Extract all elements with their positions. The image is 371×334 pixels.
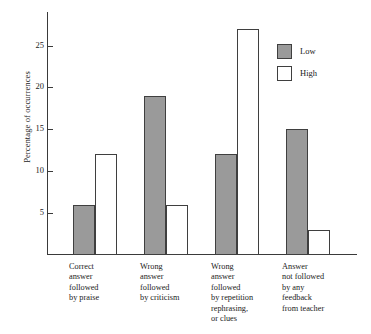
y-axis-tick: 5	[48, 213, 53, 214]
y-axis-tick: 25	[48, 46, 53, 47]
bar-high-group-1	[95, 154, 117, 255]
y-axis-tick-label: 5	[40, 207, 44, 217]
legend: LowHigh	[277, 40, 317, 84]
bar-high-group-3	[237, 29, 259, 255]
x-axis-label-1: Correct answer followed by praise	[69, 262, 99, 304]
x-axis-label-3: Wrong answer followed by repetition reph…	[211, 262, 253, 324]
bar-low-group-1	[73, 205, 95, 255]
y-axis-line	[47, 12, 48, 255]
y-axis-tick: 15	[48, 129, 53, 130]
bar-low-group-4	[286, 129, 308, 255]
legend-item-low: Low	[277, 40, 317, 62]
legend-swatch-icon	[277, 44, 292, 59]
x-axis-label-2: Wrong answer followed by criticism	[140, 262, 179, 304]
legend-swatch-icon	[277, 66, 292, 81]
y-axis-title: Percentage of occurrences	[22, 42, 32, 192]
y-axis-tick-label: 10	[36, 165, 45, 175]
bar-low-group-2	[144, 96, 166, 255]
bar-low-group-3	[215, 154, 237, 255]
legend-label: High	[300, 68, 317, 78]
bar-chart: Percentage of occurrences 510152025 Corr…	[0, 0, 371, 334]
y-axis-tick-label: 20	[36, 81, 45, 91]
legend-item-high: High	[277, 62, 317, 84]
x-axis-label-4: Answer not followed by any feedback from…	[282, 262, 324, 314]
legend-label: Low	[300, 46, 316, 56]
bar-high-group-4	[308, 230, 330, 255]
bar-high-group-2	[166, 205, 188, 255]
y-axis-tick: 10	[48, 171, 53, 172]
y-axis-tick: 20	[48, 87, 53, 88]
y-axis-tick-label: 25	[36, 40, 45, 50]
y-axis-tick-label: 15	[36, 123, 45, 133]
